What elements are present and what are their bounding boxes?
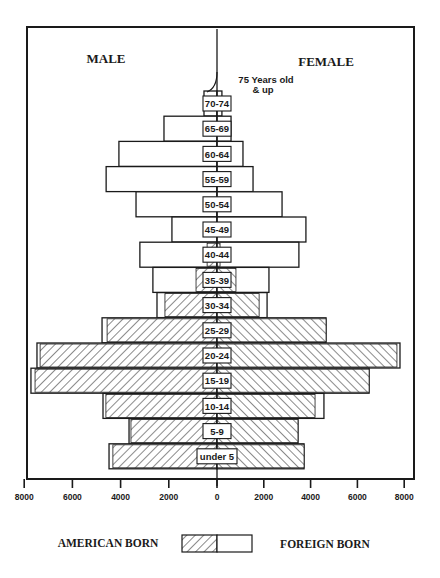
- legend-label-american-born: AMERICAN BORN: [58, 537, 159, 549]
- male-bar-55-59: [106, 167, 217, 192]
- age-labels-group: 70-7465-6960-6455-5950-5445-4940-4435-39…: [197, 96, 237, 464]
- legend-swatch-foreign-born: [217, 535, 252, 552]
- age-label: 70-74: [205, 98, 230, 109]
- x-tick-label: 8000: [395, 492, 414, 502]
- age-label: 65-69: [205, 123, 229, 134]
- x-tick-label: 6000: [63, 492, 82, 502]
- age-label: 10-14: [205, 401, 230, 412]
- x-tick-label: 4000: [111, 492, 130, 502]
- age-label: 50-54: [205, 199, 230, 210]
- male-american-bar-20-24: [40, 344, 217, 367]
- age-label: 35-39: [205, 275, 229, 286]
- x-tick-label: 2000: [159, 492, 178, 502]
- age-label: 15-19: [205, 375, 229, 386]
- male-label: MALE: [87, 51, 126, 66]
- age-label: 40-44: [205, 249, 230, 260]
- legend-swatch-american-born: [182, 535, 217, 552]
- male-american-bar-10-14: [106, 394, 217, 417]
- age-label: under 5: [200, 451, 235, 462]
- female-american-bar-10-14: [217, 394, 315, 417]
- age-label: 60-64: [205, 149, 230, 160]
- female-label: FEMALE: [298, 54, 354, 69]
- x-axis: 800060004000200002000400060008000: [15, 479, 414, 502]
- legend-label-foreign-born: FOREIGN BORN: [280, 538, 370, 550]
- x-tick-label: 4000: [301, 492, 320, 502]
- x-tick-label: 2000: [254, 492, 273, 502]
- legend: AMERICAN BORN FOREIGN BORN: [58, 535, 371, 552]
- female-american-bar-25-29: [217, 319, 326, 342]
- female-american-bar-15-19: [217, 369, 369, 392]
- age-label: 20-24: [205, 350, 230, 361]
- x-tick-label: 6000: [348, 492, 367, 502]
- age-label: 30-34: [205, 300, 230, 311]
- male-american-bar-15-19: [35, 369, 217, 392]
- x-tick-label: 8000: [15, 492, 34, 502]
- annotation-bracket: [207, 72, 217, 92]
- male-bar-60-64: [119, 141, 217, 166]
- population-pyramid-chart: MALE FEMALE 75 Years old & up 70-7465-69…: [0, 0, 440, 578]
- age-label: 55-59: [205, 174, 229, 185]
- age-label: 45-49: [205, 224, 229, 235]
- age-label: 25-29: [205, 325, 229, 336]
- age-label: 5-9: [210, 426, 224, 437]
- x-tick-label: 0: [215, 492, 220, 502]
- male-american-bar-25-29: [107, 319, 217, 342]
- annotation-line-2: & up: [252, 84, 273, 95]
- female-american-bar-20-24: [217, 344, 397, 367]
